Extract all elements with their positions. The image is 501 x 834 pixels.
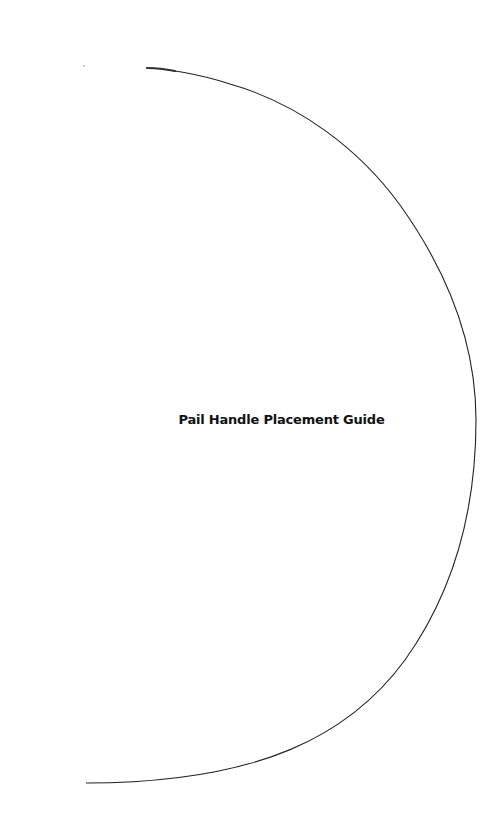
diagram-title: Pail Handle Placement Guide xyxy=(0,412,501,427)
arc-start-thickening xyxy=(147,68,175,71)
registration-mark xyxy=(83,65,85,67)
